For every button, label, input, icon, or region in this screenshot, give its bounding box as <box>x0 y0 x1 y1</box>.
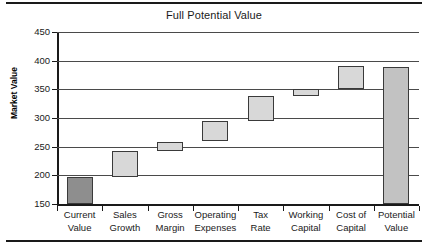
x-category-label: PotentialValue <box>374 209 419 234</box>
bar-operating-expenses[interactable] <box>202 121 228 142</box>
y-tick-mark <box>52 204 57 205</box>
y-axis-line <box>57 32 59 206</box>
gridline <box>57 32 419 33</box>
y-tick-label: 250 <box>34 142 50 152</box>
y-tick-mark <box>52 61 57 62</box>
chart-figure: Full Potential Value Market Value 150200… <box>0 0 428 250</box>
y-axis-title: Market Value <box>9 53 19 133</box>
x-category-label-line: Sales <box>102 209 147 222</box>
x-category-label-line: Rate <box>238 222 283 235</box>
gridline <box>57 147 419 148</box>
y-tick-label: 300 <box>34 113 50 123</box>
plot-area: 150200250300350400450 <box>57 32 419 206</box>
x-tick-mark <box>419 206 420 211</box>
gridline <box>57 89 419 90</box>
bar-tax-rate[interactable] <box>248 96 274 121</box>
y-tick-mark <box>52 89 57 90</box>
y-tick-mark <box>52 32 57 33</box>
x-category-label-line: Margin <box>148 222 193 235</box>
bar-current-value[interactable] <box>67 177 93 204</box>
x-category-label-line: Cost of <box>329 209 374 222</box>
y-tick-label: 400 <box>34 56 50 66</box>
x-category-label-line: Capital <box>329 222 374 235</box>
y-tick-label: 450 <box>34 27 50 37</box>
chart-title: Full Potential Value <box>0 9 428 21</box>
x-category-label-line: Current <box>57 209 102 222</box>
x-axis-labels-group: CurrentValueSalesGrowthGrossMarginOperat… <box>57 209 419 239</box>
gridline <box>57 118 419 119</box>
x-category-label: TaxRate <box>238 209 283 234</box>
bar-sales-growth[interactable] <box>112 151 138 177</box>
x-category-label: CurrentValue <box>57 209 102 234</box>
y-tick-mark <box>52 118 57 119</box>
gridline <box>57 61 419 62</box>
bottom-divider-rule <box>6 240 422 242</box>
bar-working-capital[interactable] <box>293 89 319 96</box>
y-tick-mark <box>52 147 57 148</box>
bar-gross-margin[interactable] <box>157 142 183 151</box>
x-category-label: Cost ofCapital <box>329 209 374 234</box>
y-tick-label: 200 <box>34 171 50 181</box>
x-category-label: WorkingCapital <box>283 209 328 234</box>
x-category-label-line: Value <box>374 222 419 235</box>
y-tick-label: 350 <box>34 85 50 95</box>
top-divider-rule <box>6 2 422 4</box>
x-category-label: OperatingExpenses <box>193 209 238 234</box>
x-category-label-line: Operating <box>193 209 238 222</box>
x-category-label: GrossMargin <box>148 209 193 234</box>
y-tick-mark <box>52 175 57 176</box>
x-category-label-line: Expenses <box>193 222 238 235</box>
x-category-label-line: Growth <box>102 222 147 235</box>
bar-cost-of-capital[interactable] <box>338 66 364 89</box>
x-category-label: SalesGrowth <box>102 209 147 234</box>
x-category-label-line: Value <box>57 222 102 235</box>
x-category-label-line: Gross <box>148 209 193 222</box>
x-category-label-line: Working <box>283 209 328 222</box>
x-category-label-line: Tax <box>238 209 283 222</box>
x-category-label-line: Potential <box>374 209 419 222</box>
x-category-label-line: Capital <box>283 222 328 235</box>
bar-potential-value[interactable] <box>383 67 409 204</box>
y-tick-label: 150 <box>34 199 50 209</box>
